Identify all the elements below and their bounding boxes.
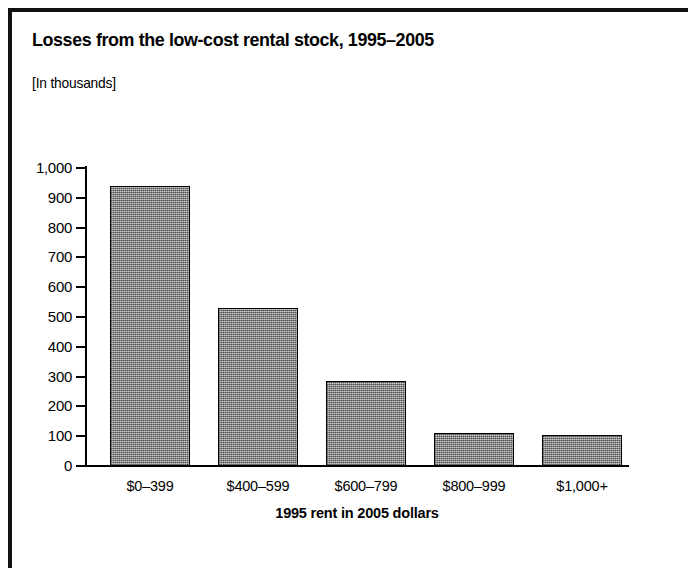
y-axis-tick-label: 900	[16, 190, 72, 205]
y-axis-tick-label: 600	[16, 279, 72, 294]
x-axis-tick-label: $1,000+	[528, 478, 636, 494]
y-axis-tick	[76, 316, 86, 318]
bar	[218, 308, 298, 466]
y-axis-tick-label: 700	[16, 249, 72, 264]
y-axis-tick-label: 100	[16, 428, 72, 443]
y-axis-tick-label: 800	[16, 220, 72, 235]
y-axis-tick	[76, 465, 86, 467]
y-axis-tick	[76, 256, 86, 258]
bar	[434, 433, 514, 466]
bar	[110, 186, 190, 466]
plot-area: 01002003004005006007008009001,000 $0–399…	[12, 12, 672, 532]
x-axis-tick-label: $0–399	[96, 478, 204, 494]
y-axis-tick	[76, 405, 86, 407]
y-axis-tick	[76, 167, 86, 169]
y-axis-tick-label: 500	[16, 309, 72, 324]
y-axis-tick	[76, 227, 86, 229]
bar	[542, 435, 622, 466]
y-axis-tick	[76, 346, 86, 348]
y-axis-tick-label: 1,000	[16, 160, 72, 175]
y-axis-tick	[76, 197, 86, 199]
x-axis-tick-label: $800–999	[420, 478, 528, 494]
y-axis-tick-label: 400	[16, 339, 72, 354]
x-axis-tick-label: $400–599	[204, 478, 312, 494]
x-axis-tick-label: $600–799	[312, 478, 420, 494]
y-axis-tick-label: 300	[16, 369, 72, 384]
x-axis-title: 1995 rent in 2005 dollars	[85, 505, 629, 521]
y-axis-tick	[76, 376, 86, 378]
bar	[326, 381, 406, 466]
y-axis-tick	[76, 435, 86, 437]
y-axis-tick	[76, 286, 86, 288]
figure-panel: Losses from the low-cost rental stock, 1…	[8, 8, 688, 568]
y-axis-tick-label: 200	[16, 398, 72, 413]
y-axis-tick-label: 0	[16, 458, 72, 473]
